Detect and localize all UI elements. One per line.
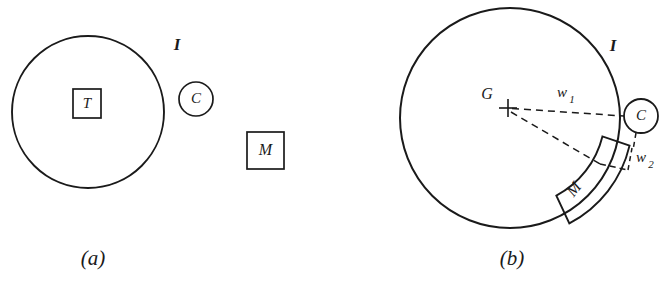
panel-b-w1-subscript: 1 <box>569 93 575 105</box>
panel-b-w2-subscript: 2 <box>648 158 654 170</box>
panel-b-w2-label: w 2 <box>636 149 654 169</box>
panel-b-w2-symbol: w <box>636 149 646 165</box>
panel-b-center-label: G <box>481 85 493 102</box>
panel-b-interface-label: I <box>609 36 618 55</box>
panel-b-w1-label: w 1 <box>557 84 575 104</box>
panel-a-interface-label: I <box>173 35 182 54</box>
panel-b-w1-leader <box>512 109 624 117</box>
panel-b-magnet-label: M <box>562 177 585 200</box>
panel-a-coil-label: C <box>191 90 202 106</box>
panel-a-target-label: T <box>83 95 93 111</box>
panel-b-caption: (b) <box>500 246 525 270</box>
panel-b-interface-circle <box>400 8 620 228</box>
panel-b: I G M C <box>400 8 658 270</box>
panel-b-coil-label: C <box>636 107 647 123</box>
panel-b-magnet-leader <box>511 112 600 164</box>
figure-root: I T C M (a) I G <box>0 0 670 287</box>
panel-a-magnet-label: M <box>258 141 274 158</box>
panel-a-interface-circle <box>12 36 164 188</box>
panel-a-caption: (a) <box>81 246 106 270</box>
panel-a: I T C M (a) <box>12 35 284 270</box>
panel-b-magnet-arc <box>551 134 637 225</box>
diagram-svg: I T C M (a) I G <box>0 0 670 287</box>
panel-b-w1-symbol: w <box>557 84 567 100</box>
panel-b-coil-drop-line <box>633 133 636 150</box>
